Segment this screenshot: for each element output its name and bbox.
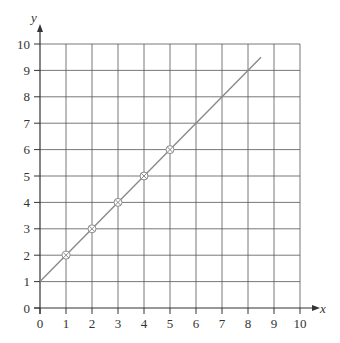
x-tick-label: 2: [89, 316, 96, 331]
y-tick-label: 8: [24, 89, 31, 104]
tick-labels: 012345678910012345678910: [17, 37, 307, 332]
circled-x-marker-icon: [114, 198, 122, 206]
x-axis-label: x: [319, 301, 326, 316]
x-tick-label: 0: [37, 316, 44, 331]
data-line: [40, 57, 261, 281]
x-tick-label: 1: [63, 316, 70, 331]
axes: [34, 24, 320, 314]
y-tick-label: 1: [24, 274, 31, 289]
y-tick-label: 7: [24, 116, 31, 131]
y-axis-label: y: [29, 10, 37, 25]
x-tick-label: 3: [115, 316, 122, 331]
grid-lines: [40, 44, 300, 308]
y-tick-label: 4: [24, 195, 31, 210]
circled-x-marker-icon: [88, 225, 96, 233]
circled-x-marker-icon: [62, 251, 70, 259]
x-tick-label: 5: [167, 316, 174, 331]
y-tick-label: 10: [17, 37, 30, 52]
x-tick-label: 4: [141, 316, 148, 331]
x-tick-label: 10: [294, 316, 307, 331]
y-tick-label: 6: [24, 142, 31, 157]
y-tick-label: 0: [24, 301, 31, 316]
x-tick-label: 6: [193, 316, 200, 331]
x-tick-label: 8: [245, 316, 252, 331]
y-tick-label: 9: [24, 63, 31, 78]
circled-x-marker-icon: [166, 146, 174, 154]
y-tick-label: 5: [24, 169, 31, 184]
y-axis-arrow-icon: [37, 24, 43, 32]
x-axis-arrow-icon: [312, 305, 320, 311]
x-tick-label: 9: [271, 316, 278, 331]
x-tick-label: 7: [219, 316, 226, 331]
circled-x-marker-icon: [140, 172, 148, 180]
y-tick-label: 3: [24, 221, 31, 236]
y-tick-label: 2: [24, 248, 31, 263]
line-chart: 012345678910012345678910 x y: [0, 0, 340, 343]
data-series: [40, 57, 261, 281]
